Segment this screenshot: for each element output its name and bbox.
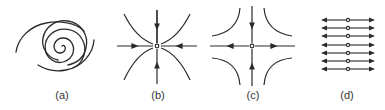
- panel-label-a: (a): [47, 89, 77, 101]
- panel-label-d: (d): [332, 89, 362, 101]
- panel-label-c: (c): [238, 89, 268, 101]
- flow-line: [324, 43, 372, 46]
- panel-label-b: (b): [143, 89, 173, 101]
- saddle-point-diagram: [210, 6, 295, 86]
- stable-node-diagram: [117, 10, 197, 84]
- flow-line: [324, 67, 372, 70]
- flow-line: [324, 51, 372, 54]
- flow-line: [324, 34, 372, 37]
- flow-line: [324, 26, 372, 29]
- flow-line: [324, 59, 372, 62]
- flow-line: [324, 18, 372, 21]
- spiral-diagram: [16, 21, 94, 71]
- fixed-line-diagram: [324, 18, 372, 70]
